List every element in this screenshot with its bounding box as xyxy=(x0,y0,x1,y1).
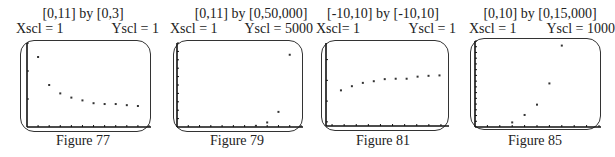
scatter-plot xyxy=(174,41,304,133)
calculator-screen xyxy=(173,40,303,132)
calculator-screen xyxy=(470,38,601,130)
scatter-plot xyxy=(471,39,602,131)
figure-81-panel: [-10,10] by [-10,10] Xscl= 1 Yscl = 1 Fi… xyxy=(316,0,466,157)
figure-caption: Figure 81 xyxy=(308,133,458,149)
yscl-label: Yscl = 5000 xyxy=(244,21,313,37)
window-range-label: [-10,10] by [-10,10] xyxy=(308,6,458,22)
figure-caption: Figure 85 xyxy=(460,133,610,149)
xscl-label: Xscl = 1 xyxy=(170,21,218,37)
figure-79-panel: [0,11] by [0,50,000] Xscl = 1 Yscl = 500… xyxy=(162,0,312,157)
figure-caption: Figure 77 xyxy=(8,133,158,149)
figure-85-panel: [0,10] by [0,15,000] Xscl = 1 Yscl = 100… xyxy=(463,0,613,157)
yscl-label: Yscl = 1 xyxy=(408,21,456,37)
window-range-label: [0,11] by [0,3] xyxy=(8,6,158,22)
yscl-label: Yscl = 1 xyxy=(111,21,159,37)
window-range-label: [0,10] by [0,15,000] xyxy=(465,6,615,22)
scatter-plot xyxy=(21,41,152,133)
figure-77-panel: [0,11] by [0,3] Xscl = 1 Yscl = 1 Figure… xyxy=(8,0,158,157)
yscl-label: Yscl = 1000 xyxy=(546,21,615,37)
calculator-screen xyxy=(321,40,449,131)
calculator-screen xyxy=(20,40,151,132)
xscl-label: Xscl = 1 xyxy=(16,21,64,37)
scatter-plot xyxy=(322,41,450,132)
xscl-label: Xscl= 1 xyxy=(316,21,360,37)
xscl-label: Xscl = 1 xyxy=(469,21,517,37)
window-range-label: [0,11] by [0,50,000] xyxy=(176,6,326,22)
figure-caption: Figure 79 xyxy=(162,133,312,149)
